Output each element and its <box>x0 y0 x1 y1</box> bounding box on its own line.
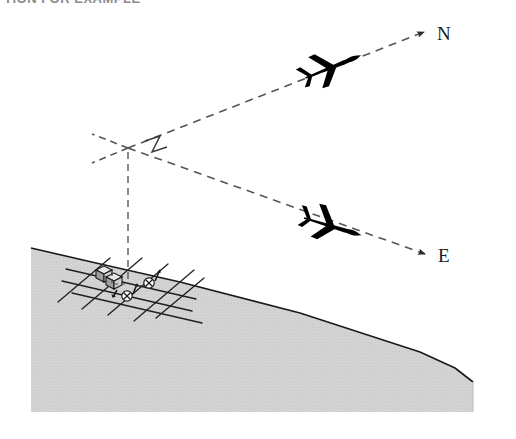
diagram-svg <box>0 0 516 439</box>
southwest-tick-line <box>92 148 128 163</box>
aircraft-east <box>293 198 367 252</box>
bearing-lines-group <box>92 32 425 254</box>
west-tick-line <box>92 134 128 148</box>
figure-canvas: TION FOR EXAMPLE <box>0 0 516 439</box>
label-east: E <box>438 246 450 265</box>
aircraft-north <box>293 39 367 95</box>
building-two <box>106 273 122 289</box>
label-north: N <box>437 24 451 43</box>
north-bearing-line <box>128 32 424 148</box>
east-bearing-line <box>128 148 425 254</box>
vertex-right-angle-marker <box>145 136 167 152</box>
